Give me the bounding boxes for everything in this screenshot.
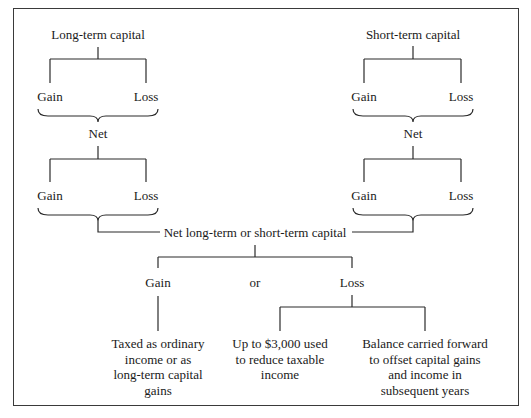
short-term-capital-title: Short-term capital: [366, 27, 460, 42]
gain-result-line: Taxed as ordinary: [112, 336, 205, 352]
loss-result-1-line: income: [232, 367, 327, 383]
loss-split: [280, 295, 425, 331]
lt-brace-1: [38, 109, 158, 122]
loss-result-2-line: to offset capital gains: [362, 352, 488, 368]
long-term-capital-title: Long-term capital: [51, 27, 145, 42]
loss-result-2-line: subsequent years: [362, 383, 488, 399]
lt-net-label: Net: [89, 126, 108, 141]
st-gain-label-1: Gain: [351, 89, 376, 104]
st-net-label: Net: [404, 126, 423, 141]
gain-result-text: Taxed as ordinary income or as long-term…: [112, 336, 205, 398]
combined-loss-label: Loss: [340, 275, 365, 290]
gain-result-line: income or as: [112, 352, 205, 368]
lt-connector: [98, 221, 160, 232]
combined-split: [158, 245, 352, 268]
st-gain-label-2: Gain: [351, 188, 376, 203]
lt-gain-label-1: Gain: [37, 89, 62, 104]
loss-result-1-line: Up to $3,000 used: [232, 336, 327, 352]
st-split-2: [364, 146, 461, 182]
st-loss-label-2: Loss: [449, 188, 474, 203]
combined-gain-label: Gain: [145, 275, 170, 290]
loss-result-2-line: Balance carried forward: [362, 336, 488, 352]
loss-result-1-text: Up to $3,000 used to reduce taxable inco…: [232, 336, 327, 383]
st-brace-2: [353, 208, 473, 221]
gain-result-line: long-term capital: [112, 367, 205, 383]
lt-loss-label-2: Loss: [134, 188, 159, 203]
st-split-1: [364, 46, 461, 83]
st-connector: [352, 221, 413, 232]
loss-result-2-text: Balance carried forward to offset capita…: [362, 336, 488, 398]
st-brace-1: [353, 109, 473, 122]
combined-title: Net long-term or short-term capital: [164, 225, 347, 240]
lt-loss-label-1: Loss: [134, 89, 159, 104]
lt-split-1: [50, 47, 146, 83]
st-loss-label-1: Loss: [449, 89, 474, 104]
gain-result-line: gains: [112, 383, 205, 399]
combined-or-label: or: [250, 275, 261, 290]
lt-brace-2: [38, 208, 158, 221]
loss-result-1-line: to reduce taxable: [232, 352, 327, 368]
lt-gain-label-2: Gain: [37, 188, 62, 203]
lt-split-2: [50, 146, 146, 182]
loss-result-2-line: and income in: [362, 367, 488, 383]
